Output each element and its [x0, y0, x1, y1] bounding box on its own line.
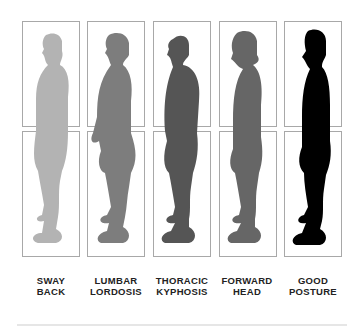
label-forward-head: FORWARD HEAD	[211, 275, 283, 297]
label-line-2: BACK	[15, 286, 87, 297]
label-line-2: KYPHOSIS	[146, 286, 218, 297]
bottom-divider	[17, 324, 347, 326]
label-lumbar-lordosis: LUMBAR LORDOSIS	[80, 275, 152, 297]
label-line-2: POSTURE	[277, 286, 349, 297]
label-line-1: LUMBAR	[80, 275, 152, 286]
label-line-2: HEAD	[211, 286, 283, 297]
posture-panel-forward-head	[219, 21, 277, 257]
label-line-1: GOOD	[277, 275, 349, 286]
posture-panel-good-posture	[284, 21, 342, 257]
label-good-posture: GOOD POSTURE	[277, 275, 349, 297]
posture-panel-thoracic-kyphosis	[153, 21, 211, 257]
posture-panel-sway-back	[22, 21, 80, 257]
silhouette-forward-head-icon	[219, 21, 277, 257]
label-thoracic-kyphosis: THORACIC KYPHOSIS	[146, 275, 218, 297]
label-line-1: SWAY	[15, 275, 87, 286]
silhouette-good-posture-icon	[284, 21, 342, 257]
silhouette-lumbar-lordosis-icon	[87, 21, 145, 257]
posture-panel-lumbar-lordosis	[87, 21, 145, 257]
silhouette-sway-back-icon	[22, 21, 80, 257]
label-sway-back: SWAY BACK	[15, 275, 87, 297]
label-line-1: THORACIC	[146, 275, 218, 286]
label-line-2: LORDOSIS	[80, 286, 152, 297]
label-line-1: FORWARD	[211, 275, 283, 286]
silhouette-thoracic-kyphosis-icon	[153, 21, 211, 257]
